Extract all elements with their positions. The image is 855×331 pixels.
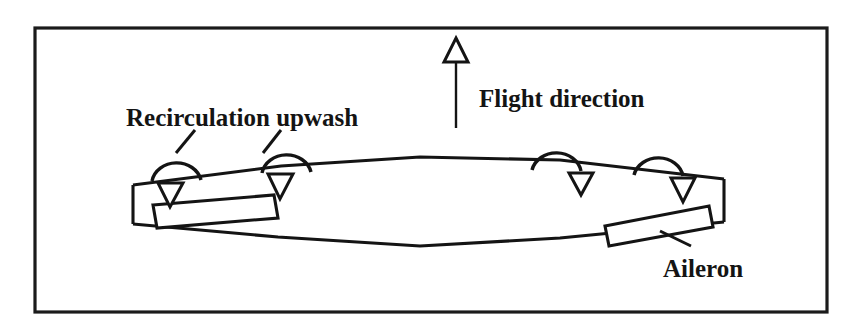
leader-recirc-left <box>176 130 195 153</box>
upwash-arrowhead-3 <box>569 173 593 195</box>
upwash-arrow-2 <box>262 155 311 199</box>
figure-root: Recirculation upwash Flight direction Ai… <box>0 0 855 331</box>
upwash-arrow-4 <box>634 158 695 202</box>
right-aileron <box>605 206 713 246</box>
flight-direction-label: Flight direction <box>479 85 645 112</box>
upwash-arrowhead-4 <box>671 178 695 202</box>
recirculation-upwash-label: Recirculation upwash <box>126 104 358 131</box>
wing-diagram-canvas: Recirculation upwash Flight direction Ai… <box>0 0 855 331</box>
leader-recirc-right <box>263 130 281 153</box>
aileron-group <box>153 195 713 246</box>
flight-arrow-head-icon <box>444 38 468 62</box>
flight-direction-arrow <box>444 38 468 128</box>
aileron-label: Aileron <box>663 255 743 282</box>
